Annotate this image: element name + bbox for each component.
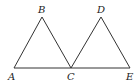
segment-cd: [71, 17, 101, 68]
label-a: A: [7, 71, 15, 82]
label-e: E: [125, 71, 134, 82]
label-d: D: [96, 4, 105, 15]
label-b: B: [37, 4, 45, 15]
label-c: C: [67, 71, 75, 82]
segment-bc: [42, 17, 71, 68]
segment-de: [101, 17, 130, 68]
segment-ab: [14, 17, 42, 68]
geometry-diagram: A B C D E: [0, 0, 138, 83]
